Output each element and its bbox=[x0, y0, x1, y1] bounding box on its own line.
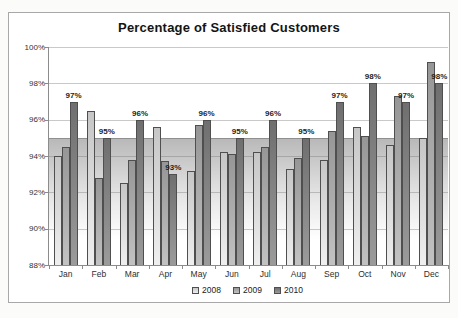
bar-2008-jun bbox=[220, 152, 228, 265]
data-label: 97% bbox=[66, 91, 82, 100]
x-axis-tick bbox=[448, 265, 449, 269]
x-axis-tick bbox=[282, 265, 283, 269]
bar-2008-may bbox=[187, 171, 195, 265]
x-axis-tick bbox=[315, 265, 316, 269]
data-label: 96% bbox=[132, 109, 148, 118]
bar-2009-dec bbox=[427, 62, 435, 265]
x-axis-label: Sep bbox=[315, 269, 348, 279]
bar-2008-dec bbox=[419, 138, 427, 265]
bar-group bbox=[116, 47, 149, 265]
plot-area: 100%98%96%94%92%90%88%Jan97%Feb95%Mar96%… bbox=[48, 47, 448, 266]
data-label: 96% bbox=[199, 109, 215, 118]
data-label: 96% bbox=[265, 109, 281, 118]
chart-frame: Percentage of Satisfied Customers 100%98… bbox=[8, 12, 450, 303]
x-axis-label: Apr bbox=[149, 269, 182, 279]
data-label: 98% bbox=[365, 72, 381, 81]
x-axis-tick bbox=[49, 265, 50, 269]
bar-group bbox=[215, 47, 248, 265]
chart-legend: 200820092010 bbox=[48, 285, 447, 295]
data-label: 93% bbox=[165, 163, 181, 172]
legend-label: 2008 bbox=[202, 285, 221, 295]
chart-image: Percentage of Satisfied Customers 100%98… bbox=[0, 0, 458, 318]
bar-group bbox=[382, 47, 415, 265]
x-axis-tick bbox=[249, 265, 250, 269]
bar-2008-nov bbox=[386, 145, 394, 265]
bar-2008-feb bbox=[87, 111, 95, 265]
bar-2010-jun bbox=[236, 138, 244, 265]
bar-2009-jul bbox=[261, 147, 269, 265]
bar-2008-jul bbox=[253, 152, 261, 265]
legend-item-2010: 2010 bbox=[274, 285, 303, 295]
chart-title: Percentage of Satisfied Customers bbox=[9, 20, 449, 35]
bar-2009-may bbox=[195, 125, 203, 265]
bar-2009-jan bbox=[62, 147, 70, 265]
data-label: 97% bbox=[332, 91, 348, 100]
bar-2008-mar bbox=[120, 183, 128, 265]
x-axis-tick bbox=[149, 265, 150, 269]
bar-group bbox=[182, 47, 215, 265]
y-axis-label: 90% bbox=[13, 224, 45, 233]
bar-2010-sep bbox=[336, 102, 344, 266]
x-axis-label: Nov bbox=[382, 269, 415, 279]
y-axis-label: 98% bbox=[13, 79, 45, 88]
bar-2009-nov bbox=[394, 96, 402, 265]
bar-2010-aug bbox=[302, 138, 310, 265]
x-axis-label: Aug bbox=[282, 269, 315, 279]
bar-2010-jan bbox=[70, 102, 78, 266]
bar-2008-jan bbox=[54, 156, 62, 265]
bar-2008-aug bbox=[286, 169, 294, 265]
x-axis-tick bbox=[215, 265, 216, 269]
legend-label: 2009 bbox=[243, 285, 262, 295]
bar-2010-feb bbox=[103, 138, 111, 265]
x-axis-label: Jul bbox=[249, 269, 282, 279]
bar-2008-sep bbox=[320, 160, 328, 265]
bar-group bbox=[315, 47, 348, 265]
bar-2008-apr bbox=[153, 127, 161, 265]
bar-2010-jul bbox=[269, 120, 277, 265]
y-axis-label: 88% bbox=[13, 261, 45, 270]
y-axis-label: 92% bbox=[13, 188, 45, 197]
y-axis-label: 94% bbox=[13, 152, 45, 161]
legend-label: 2010 bbox=[284, 285, 303, 295]
bar-2008-oct bbox=[353, 127, 361, 265]
x-axis-label: Jun bbox=[215, 269, 248, 279]
data-label: 97% bbox=[398, 91, 414, 100]
bar-group bbox=[249, 47, 282, 265]
bar-2010-apr bbox=[169, 174, 177, 265]
bar-2009-mar bbox=[128, 160, 136, 265]
data-label: 95% bbox=[99, 127, 115, 136]
x-axis-label: Jan bbox=[49, 269, 82, 279]
x-axis-label: Mar bbox=[116, 269, 149, 279]
bar-group bbox=[82, 47, 115, 265]
x-axis-label: Dec bbox=[415, 269, 448, 279]
x-axis-tick bbox=[348, 265, 349, 269]
legend-item-2009: 2009 bbox=[233, 285, 262, 295]
bar-2010-mar bbox=[136, 120, 144, 265]
x-axis-tick bbox=[116, 265, 117, 269]
x-axis-tick bbox=[82, 265, 83, 269]
bar-2009-oct bbox=[361, 136, 369, 265]
bar-group bbox=[149, 47, 182, 265]
data-label: 95% bbox=[232, 127, 248, 136]
legend-item-2008: 2008 bbox=[192, 285, 221, 295]
bar-group bbox=[49, 47, 82, 265]
x-axis-label: Oct bbox=[348, 269, 381, 279]
x-axis-tick bbox=[182, 265, 183, 269]
bar-2010-nov bbox=[402, 102, 410, 266]
x-axis-tick bbox=[415, 265, 416, 269]
data-label: 95% bbox=[298, 127, 314, 136]
y-axis-label: 96% bbox=[13, 115, 45, 124]
bar-2010-dec bbox=[435, 83, 443, 265]
bar-2009-apr bbox=[161, 161, 169, 265]
x-axis-label: May bbox=[182, 269, 215, 279]
y-axis-label: 100% bbox=[13, 43, 45, 52]
bar-2010-oct bbox=[369, 83, 377, 265]
x-axis-tick bbox=[382, 265, 383, 269]
x-axis-label: Feb bbox=[82, 269, 115, 279]
bar-2010-may bbox=[203, 120, 211, 265]
legend-swatch-2009 bbox=[233, 287, 240, 294]
bar-2009-sep bbox=[328, 131, 336, 265]
bar-2009-feb bbox=[95, 178, 103, 265]
bar-group bbox=[282, 47, 315, 265]
bar-2009-aug bbox=[294, 158, 302, 265]
